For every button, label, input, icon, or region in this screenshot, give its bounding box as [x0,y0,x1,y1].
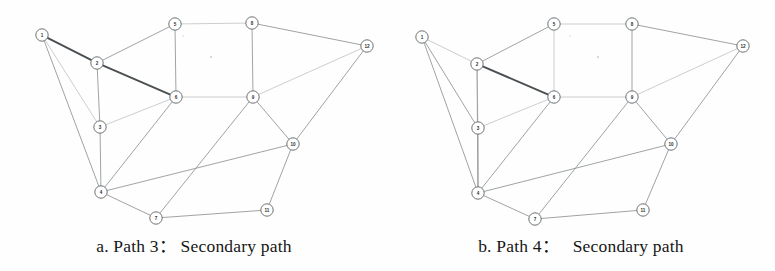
graph-edge-3-6 [106,99,170,124]
node-label-5: 5 [553,22,556,27]
graph-edge-10-11 [269,150,290,204]
graph-edge-8-12 [638,25,737,45]
graph-edge-1-3 [425,42,475,122]
graph-node-9[interactable]: 9 [626,91,638,103]
graph-node-3[interactable]: 3 [472,122,484,134]
panel-path-3: 123456789101112 a. Path 3： Secondary pat… [0,0,388,271]
edge-layer [44,23,363,217]
graph-edge-7-9 [160,102,249,213]
node-label-1: 1 [421,35,424,40]
graph-edge-1-2 [48,38,92,60]
graph-edge-1-3 [45,40,96,122]
graph-edge-8-9 [252,29,253,91]
graph-node-1[interactable]: 1 [416,31,428,43]
graph-edge-2-3 [97,69,99,121]
node-label-7: 7 [155,216,158,221]
edge-layer [424,24,739,218]
graph-edge-9-12 [259,49,362,95]
scan-speck-1 [182,35,183,36]
node-label-8: 8 [631,22,634,27]
graph-edge-7-11 [541,211,637,219]
graph-edge-4-6 [482,102,550,188]
node-label-5: 5 [174,22,177,27]
graph-node-12[interactable]: 12 [737,40,749,52]
graph-edge-4-7 [107,195,151,216]
graph-node-2[interactable]: 2 [471,58,483,70]
graph-edge-1-2 [428,40,472,62]
node-label-11: 11 [641,208,646,213]
graph-edge-9-10 [257,102,289,140]
graph-edge-4-10 [107,146,287,191]
scan-speck-0 [597,56,599,58]
caption-path-4: b. Path 4： Secondary path [387,232,775,257]
graph-edge-3-4 [100,133,101,186]
graph-edge-9-10 [636,102,667,139]
graph-node-4[interactable]: 4 [472,187,484,199]
graph-node-7[interactable]: 7 [529,213,541,225]
graph-diagram-path-4: 123456789101112 [387,0,775,232]
node-label-12: 12 [364,44,370,49]
graph-node-7[interactable]: 7 [150,212,162,224]
scan-speck-0 [210,56,212,58]
node-label-1: 1 [41,33,44,38]
node-layer: 123456789101112 [36,17,373,224]
caption-path-3: a. Path 3： Secondary path [0,232,388,257]
graph-node-10[interactable]: 10 [287,138,299,150]
node-label-10: 10 [668,142,674,147]
node-label-9: 9 [252,95,255,100]
graph-edge-8-12 [258,24,361,45]
figure-container: 123456789101112 a. Path 3： Secondary pat… [0,0,775,271]
scan-speck-1 [569,35,570,36]
node-label-3: 3 [477,126,480,131]
node-label-3: 3 [99,125,102,130]
node-label-9: 9 [631,95,634,100]
graph-edge-4-7 [484,196,530,217]
graph-node-8[interactable]: 8 [626,18,638,30]
node-label-4: 4 [100,190,103,195]
graph-node-2[interactable]: 2 [91,57,103,69]
graph-node-9[interactable]: 9 [247,91,259,103]
graph-edge-10-11 [645,150,668,205]
graph-edge-2-6 [483,66,549,94]
panel-path-4: 123456789101112 b. Path 4： Secondary pat… [387,0,775,271]
graph-node-5[interactable]: 5 [169,18,181,30]
graph-node-4[interactable]: 4 [95,186,107,198]
node-label-6: 6 [553,95,556,100]
graph-edge-2-5 [103,27,170,60]
graph-edge-4-10 [484,146,665,192]
graph-edge-9-12 [638,49,738,95]
graph-node-11[interactable]: 11 [261,204,273,216]
graph-edge-10-12 [297,51,364,139]
graph-node-3[interactable]: 3 [94,121,106,133]
node-label-12: 12 [740,44,746,49]
node-label-11: 11 [265,208,270,213]
graph-edge-3-6 [484,99,549,125]
graph-node-6[interactable]: 6 [548,91,560,103]
graph-diagram-path-3: 123456789101112 [0,0,388,232]
node-label-7: 7 [534,217,537,222]
graph-node-6[interactable]: 6 [170,91,182,103]
node-label-8: 8 [251,21,254,26]
graph-edge-1-4 [424,43,476,187]
graph-edge-10-12 [675,51,740,139]
node-label-2: 2 [96,61,99,66]
graph-edge-4-6 [105,102,172,187]
graph-node-5[interactable]: 5 [548,18,560,30]
graph-node-1[interactable]: 1 [36,29,48,41]
graph-node-8[interactable]: 8 [246,17,258,29]
graph-edge-2-5 [483,27,549,61]
graph-node-11[interactable]: 11 [637,204,649,216]
graph-edge-5-8 [181,23,246,24]
node-label-6: 6 [175,95,178,100]
graph-node-10[interactable]: 10 [665,138,677,150]
node-layer: 123456789101112 [416,18,749,225]
node-label-10: 10 [290,142,296,147]
graph-node-12[interactable]: 12 [361,40,373,52]
graph-edge-2-6 [103,65,171,94]
node-label-4: 4 [477,191,480,196]
graph-edge-5-6 [175,30,176,91]
graph-edge-7-11 [162,210,261,217]
node-label-2: 2 [476,62,479,67]
